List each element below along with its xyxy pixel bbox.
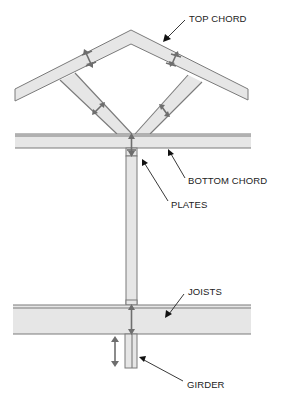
label-joists: JOISTS (188, 286, 222, 297)
label-top-chord: TOP CHORD (189, 13, 247, 24)
truss-diagram: TOP CHORD BOTTOM CHORD PLATES JOISTS GIR… (0, 0, 281, 397)
post (126, 156, 137, 305)
label-plates: PLATES (171, 199, 207, 210)
label-bottom-chord: BOTTOM CHORD (188, 175, 267, 186)
web-members (60, 73, 202, 134)
label-girder: GIRDER (187, 379, 225, 390)
top-chord (15, 30, 248, 101)
double-arrow-icon (111, 336, 119, 367)
girder (125, 334, 137, 368)
